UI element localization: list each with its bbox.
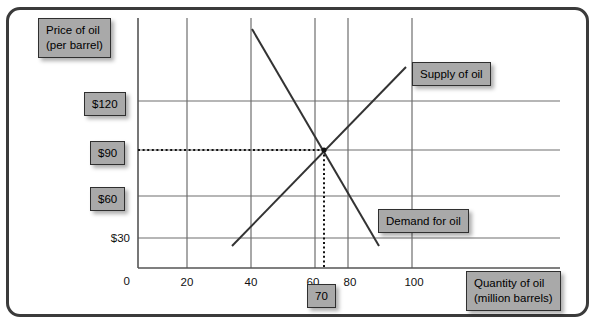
y-axis-title-line2: (per barrel) [46, 38, 103, 53]
x-tick-label-20: 20 [181, 276, 194, 288]
x-tick-label-40: 40 [245, 276, 258, 288]
x-axis-title-line2: (million barrels) [474, 291, 553, 306]
y-tick-label-30: $30 [82, 232, 130, 244]
x-tick-label-100: 100 [404, 276, 423, 288]
x-axis-title-callout: Quantity of oil (million barrels) [466, 271, 561, 311]
x-axis-title-line1: Quantity of oil [474, 276, 553, 291]
y-axis-title-callout: Price of oil (per barrel) [38, 18, 111, 58]
y-tick-label-60: $60 [90, 187, 125, 211]
x-tick-label-80: 80 [344, 276, 357, 288]
x-tick-label-70-highlight: 70 [307, 284, 336, 308]
y-axis-origin-label: 0 [82, 275, 130, 287]
y-tick-label-120: $120 [84, 92, 126, 116]
supply-curve-label: Supply of oil [412, 62, 491, 86]
y-tick-label-90: $90 [90, 141, 125, 165]
supply-demand-chart-figure: Price of oil (per barrel) Quantity of oi… [0, 0, 603, 332]
y-axis-title-line1: Price of oil [46, 23, 103, 38]
demand-curve-label: Demand for oil [378, 209, 469, 233]
equilibrium-point [321, 147, 326, 152]
